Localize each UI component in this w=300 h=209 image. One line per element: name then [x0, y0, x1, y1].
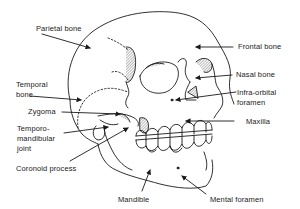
label-temporal-bone-line2: bone [16, 90, 33, 99]
label-mandible: Mandible [118, 195, 149, 204]
orbit [140, 62, 178, 93]
arrow-mental-foramen [182, 176, 206, 194]
cranium-outline [68, 12, 234, 104]
label-infra-orbital-line2: foramen [237, 98, 265, 107]
sphenoid [126, 47, 136, 83]
skull-diagram: Parietal bone Frontal bone Temporal bone… [0, 0, 300, 209]
nasal-bone [178, 59, 190, 82]
label-mental-foramen: Mental foramen [210, 195, 264, 204]
lower-teeth [136, 134, 212, 152]
arrow-tmj [64, 127, 108, 133]
label-frontal-bone: Frontal bone [238, 42, 281, 51]
label-tmj-line1: Temporo- [17, 124, 49, 133]
label-parietal-bone: Parietal bone [36, 24, 82, 33]
suture-line [108, 38, 128, 50]
label-tmj-line3: joint [17, 144, 31, 153]
label-infra-orbital-line1: Infra-orbital [237, 88, 276, 97]
arrow-temporal [30, 96, 81, 100]
label-maxilla: Maxilla [246, 117, 270, 126]
arrow-zygoma [62, 112, 120, 114]
label-tmj-line2: mandibular [17, 134, 55, 143]
label-nasal-bone: Nasal bone [236, 70, 275, 79]
label-zygoma: Zygoma [28, 107, 56, 116]
label-temporal-bone-line1: Temporal [16, 80, 48, 89]
arrow-nasal [196, 75, 232, 78]
arrow-coronoid [70, 128, 128, 161]
occipital-outline [70, 100, 98, 144]
label-coronoid-process: Coronoid process [16, 164, 76, 173]
suture-line-2 [112, 71, 128, 80]
